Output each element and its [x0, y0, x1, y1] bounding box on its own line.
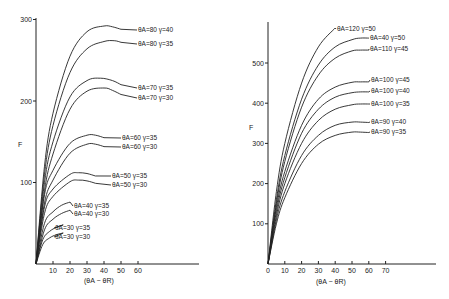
x-tick-label: 20: [66, 267, 74, 274]
x-tick-label: 10: [281, 267, 289, 274]
label-leader: [70, 210, 73, 214]
x-tick-label: 50: [117, 267, 125, 274]
series-label: θA=80 γ=35: [138, 40, 173, 48]
left-x-axis-title: (θA − θR): [84, 277, 114, 285]
x-tick-label: 60: [134, 267, 142, 274]
series-label: θA=60 γ=35: [122, 134, 157, 142]
y-tick-label: 200: [20, 98, 32, 105]
x-tick-label: 40: [100, 267, 108, 274]
left-y-ticks: 100200300: [20, 16, 36, 186]
right-y-axis-title: F: [249, 124, 253, 131]
series-label: θA=100 γ=40: [371, 87, 410, 95]
label-leader: [369, 91, 370, 92]
series-label: θA=70 γ=30: [138, 94, 173, 102]
x-tick-label: 20: [298, 267, 306, 274]
series-label: θA=40 γ=50: [370, 34, 405, 42]
y-tick-label: 300: [252, 140, 264, 147]
right-curves: [268, 28, 369, 264]
series-label: θA=60 γ=30: [122, 143, 157, 151]
series-label: θA=50 γ=35: [112, 172, 147, 180]
label-leader: [121, 85, 137, 88]
y-tick-label: 500: [252, 60, 264, 67]
left-x-ticks: 102030405060: [49, 261, 142, 274]
series-label: θA=100 γ=35: [371, 100, 410, 108]
label-leader: [121, 29, 137, 30]
x-tick-label: 30: [315, 267, 323, 274]
right-chart: 100200300400500 010203040506070 θA=120 γ…: [249, 22, 436, 286]
y-tick-label: 100: [20, 179, 32, 186]
y-tick-label: 300: [20, 16, 32, 23]
x-tick-label: 70: [382, 267, 390, 274]
series-label: θA=40 γ=35: [74, 202, 109, 210]
series-curve: [268, 122, 369, 264]
right-x-axis-title: (θA − θR): [316, 278, 346, 286]
label-leader: [369, 132, 370, 133]
label-leader: [70, 202, 73, 206]
left-series-labels: θA=80 γ=40θA=80 γ=35θA=70 γ=35θA=70 γ=30…: [54, 26, 173, 241]
x-tick-label: 60: [365, 267, 373, 274]
series-label: θA=70 γ=35: [138, 84, 173, 92]
chart-figure: 100200300 102030405060 θA=80 γ=40θA=80 γ…: [0, 0, 449, 299]
x-tick-label: 50: [348, 267, 356, 274]
right-x-ticks: 010203040506070: [266, 261, 390, 274]
series-curve: [268, 28, 335, 264]
series-label: θA=30 γ=35: [55, 224, 90, 232]
series-label: θA=90 γ=35: [371, 128, 406, 136]
series-label: θA=40 γ=30: [74, 210, 109, 218]
y-tick-label: 400: [252, 100, 264, 107]
label-leader: [121, 94, 137, 98]
y-tick-label: 200: [252, 180, 264, 187]
x-tick-label: 30: [83, 267, 91, 274]
series-label: θA=100 γ=45: [371, 76, 410, 84]
left-chart: 100200300 102030405060 θA=80 γ=40θA=80 γ…: [18, 16, 199, 285]
x-tick-label: 40: [331, 267, 339, 274]
label-leader: [121, 42, 137, 44]
series-label: θA=90 γ=40: [371, 118, 406, 126]
series-label: θA=80 γ=40: [138, 26, 173, 34]
series-label: θA=120 γ=50: [337, 25, 376, 33]
label-leader: [369, 80, 370, 82]
y-tick-label: 100: [252, 220, 264, 227]
x-tick-label: 10: [49, 267, 57, 274]
label-leader: [335, 28, 336, 29]
series-label: θA=50 γ=30: [112, 181, 147, 189]
series-label: θA=30 γ=30: [55, 233, 90, 241]
x-tick-label: 0: [266, 267, 270, 274]
left-y-axis-title: F: [18, 141, 22, 148]
label-leader: [96, 183, 112, 185]
right-y-ticks: 100200300400500: [252, 60, 268, 228]
series-label: θA=110 γ=45: [370, 45, 409, 53]
